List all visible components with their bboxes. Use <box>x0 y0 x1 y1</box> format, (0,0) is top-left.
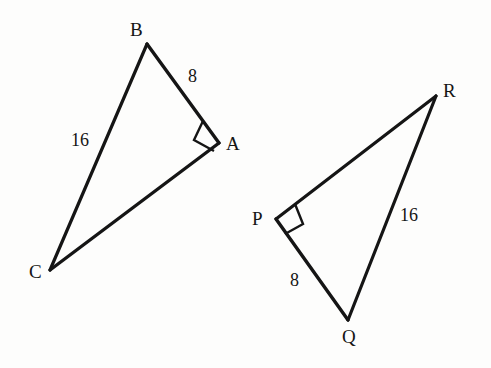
vertex-label-r: R <box>443 81 456 100</box>
side-length-label-ab: 8 <box>188 67 197 85</box>
segment-ba <box>147 44 219 143</box>
vertex-label-a: A <box>226 134 240 153</box>
geometry-figure <box>0 0 491 368</box>
geometry-diagram-canvas: B A C 8 16 R P Q 8 16 <box>0 0 491 368</box>
segment-bc <box>50 44 147 270</box>
side-length-label-bc: 16 <box>71 131 89 149</box>
side-length-label-pq: 8 <box>290 271 299 289</box>
vertex-label-q: Q <box>342 327 356 346</box>
right-angle-marker-a <box>194 121 214 151</box>
segment-ca <box>50 143 219 270</box>
side-length-label-qr: 16 <box>400 206 418 224</box>
vertex-label-c: C <box>29 262 42 281</box>
vertex-label-p: P <box>252 209 263 228</box>
vertex-label-b: B <box>130 20 143 39</box>
